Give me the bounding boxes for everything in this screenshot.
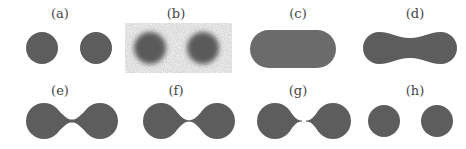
panel-d-shape	[363, 32, 457, 64]
figure-grid: (a) (b) (c) (d) (e) (f) (g) (h)	[0, 0, 466, 149]
panel-a-label: (a)	[51, 7, 69, 20]
panel-b-shape	[125, 23, 232, 73]
panel-c-label: (c)	[289, 7, 306, 20]
panel-b-label: (b)	[167, 7, 185, 20]
panel-e-shape	[26, 103, 118, 139]
panel-f-shape	[143, 103, 235, 139]
panel-a-shape	[26, 32, 112, 64]
panel-g-shape	[257, 103, 351, 139]
figure-canvas	[0, 0, 466, 149]
panel-e-label: (e)	[51, 84, 69, 97]
panel-h-label: (h)	[406, 84, 425, 97]
panel-d-label: (d)	[406, 7, 424, 20]
panel-h-shape	[368, 105, 453, 137]
panel-f-label: (f)	[169, 84, 184, 97]
panel-c-shape	[250, 30, 336, 68]
panel-g-label: (g)	[289, 84, 307, 97]
